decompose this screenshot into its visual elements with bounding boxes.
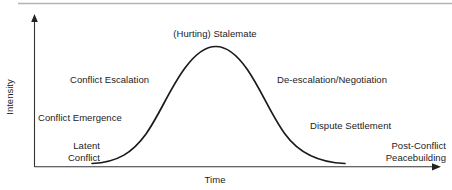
label-post-conflict-line2: Peacebuilding (350, 152, 446, 164)
label-dispute-settlement: Dispute Settlement (310, 120, 391, 132)
y-axis-arrowhead (31, 14, 38, 22)
conflict-curve-path (92, 47, 345, 164)
label-conflict-emergence: Conflict Emergence (38, 112, 122, 124)
x-axis-arrowhead (432, 163, 441, 170)
label-post-conflict-peacebuilding: Post-Conflict Peacebuilding (350, 140, 446, 163)
label-latent-conflict: Latent Conflict (32, 140, 100, 163)
label-hurting-stalemate: (Hurting) Stalemate (173, 28, 256, 40)
conflict-curve-figure: Intensity Time (Hurting) Stalemate Confl… (0, 0, 452, 190)
label-latent-conflict-line2: Conflict (32, 152, 100, 164)
label-conflict-escalation: Conflict Escalation (70, 74, 149, 86)
label-deescalation-negotiation: De-escalation/Negotiation (277, 74, 387, 86)
label-post-conflict-line1: Post-Conflict (350, 140, 446, 152)
x-axis-title: Time (205, 174, 226, 186)
label-latent-conflict-line1: Latent (32, 140, 100, 152)
y-axis-title: Intensity (4, 62, 15, 132)
